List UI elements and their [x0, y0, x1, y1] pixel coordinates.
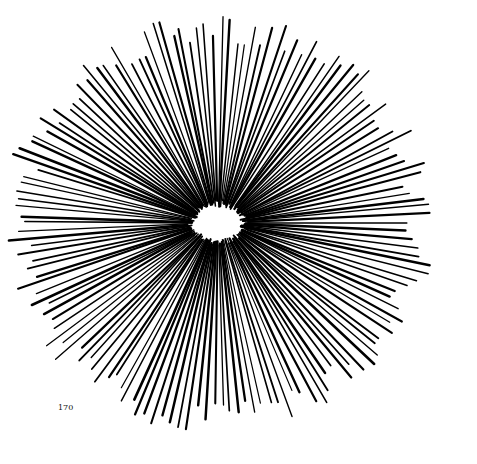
radial-line-figure [0, 0, 477, 464]
center-ellipse [198, 212, 238, 234]
ray-line [237, 235, 377, 355]
ray-line [84, 66, 202, 210]
page-number: 170 [58, 403, 73, 412]
ray-line [241, 232, 402, 321]
ray-line [112, 47, 205, 206]
